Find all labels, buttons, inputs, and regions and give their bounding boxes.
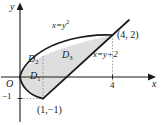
region-label-d1: D1 xyxy=(30,71,40,81)
region-d3-subscript: 3 xyxy=(69,54,72,61)
figure-container: y x O 4 −1 x=y2 x=y+2 D1 D2 D3 (4, 2) (1… xyxy=(0,0,165,125)
region-label-d2: D2 xyxy=(28,54,38,64)
line-equation-label: x=y+2 xyxy=(93,50,118,59)
x-tick-label-4: 4 xyxy=(110,81,115,90)
point-label-1-minus1: (1,−1) xyxy=(37,105,62,115)
shaded-region-precise xyxy=(20,35,113,98)
x-axis-label: x xyxy=(152,79,156,89)
y-axis-label: y xyxy=(10,2,14,12)
region-d2-subscript: 2 xyxy=(35,58,38,65)
region-d1-subscript: 1 xyxy=(37,75,40,82)
y-axis-arrow xyxy=(17,3,24,11)
region-label-d3: D3 xyxy=(62,50,72,60)
parabola-equation-label: x=y2 xyxy=(52,21,69,30)
parabola-equation-exponent: 2 xyxy=(66,18,69,25)
point-label-4-2: (4, 2) xyxy=(117,30,139,40)
parabola-equation-text: x=y xyxy=(52,20,66,30)
y-tick-label-minus1: −1 xyxy=(2,92,12,101)
plot-svg xyxy=(0,0,165,125)
origin-label: O xyxy=(6,79,13,89)
